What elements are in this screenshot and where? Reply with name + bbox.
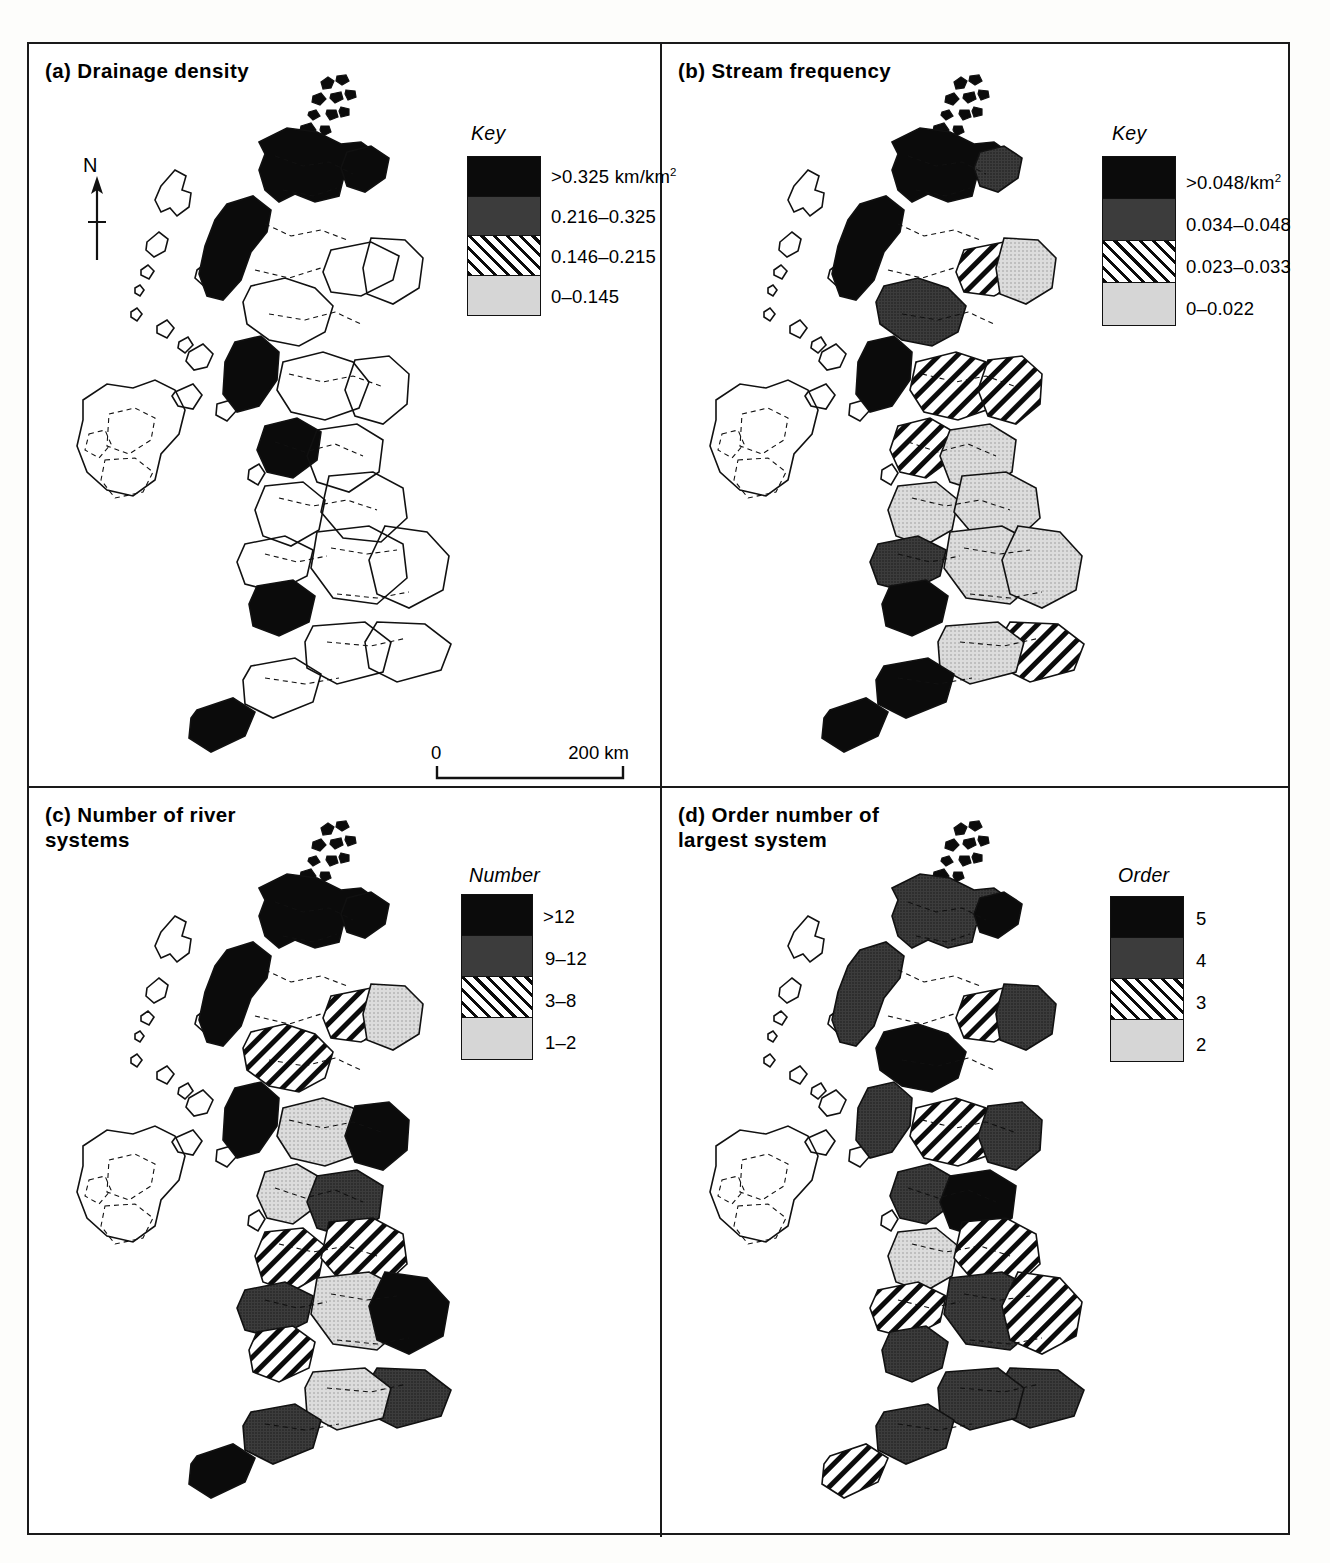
panel-d-legend-label-1: 5 xyxy=(1196,908,1207,930)
legend-swatch-class2 xyxy=(462,936,532,977)
legend-swatch-class4 xyxy=(1111,1020,1183,1061)
legend-swatch-class3 xyxy=(462,977,532,1018)
legend-swatch-class3 xyxy=(468,236,540,276)
panel-c-legend-label-3: 3–8 xyxy=(545,990,576,1012)
legend-label-text: >0.048/km xyxy=(1186,172,1275,193)
panel-d-order-number-of-largest-system: (d) Order number of largest system xyxy=(662,788,1290,1535)
legend-swatch-class2 xyxy=(1103,199,1175,241)
panel-c-key-heading: Number xyxy=(469,864,540,887)
panel-a-legend-label-4: 0–0.145 xyxy=(551,286,619,308)
panel-a-legend-label-1: >0.325 km/km2 xyxy=(551,166,677,188)
scale-bar-right-label: 200 km xyxy=(568,742,629,764)
map-b xyxy=(702,74,1162,774)
panel-d-legend-label-4: 2 xyxy=(1196,1034,1207,1056)
panel-b-legend-swatches xyxy=(1102,156,1176,326)
panel-a-legend-label-3: 0.146–0.215 xyxy=(551,246,656,268)
panel-c-legend-label-2: 9–12 xyxy=(545,948,587,970)
legend-swatch-class1 xyxy=(1111,897,1183,938)
panel-d-legend-swatches xyxy=(1110,896,1184,1062)
panel-b-legend-label-2: 0.034–0.048 xyxy=(1186,214,1291,236)
panel-a-legend-swatches xyxy=(467,156,541,316)
legend-swatch-class2 xyxy=(468,197,540,237)
scale-bar-icon xyxy=(431,764,629,786)
scale-bar-left-label: 0 xyxy=(431,742,441,764)
panel-d-legend-label-3: 3 xyxy=(1196,992,1207,1014)
legend-swatch-class1 xyxy=(468,157,540,197)
panel-b-legend-label-4: 0–0.022 xyxy=(1186,298,1254,320)
panel-c-legend-swatches xyxy=(461,894,533,1060)
map-a xyxy=(69,74,529,774)
panel-b-stream-frequency: (b) Stream frequency xyxy=(662,44,1290,786)
panel-b-key-heading: Key xyxy=(1112,122,1147,145)
legend-swatch-class2 xyxy=(1111,938,1183,979)
scale-bar: 0 200 km xyxy=(431,742,629,782)
panel-d-legend-label-2: 4 xyxy=(1196,950,1207,972)
legend-swatch-class3 xyxy=(1103,241,1175,283)
legend-label-text: >0.325 km/km xyxy=(551,166,670,187)
panel-b-legend-label-3: 0.023–0.033 xyxy=(1186,256,1291,278)
legend-swatch-class4 xyxy=(468,276,540,316)
figure-frame: (a) Drainage density N xyxy=(27,42,1290,1535)
map-d xyxy=(702,820,1162,1520)
panel-d-key-heading: Order xyxy=(1118,864,1169,887)
panel-c-number-of-river-systems: (c) Number of river systems xyxy=(29,788,660,1535)
legend-swatch-class3 xyxy=(1111,979,1183,1020)
panel-a-key-heading: Key xyxy=(471,122,506,145)
panel-a-legend-label-2: 0.216–0.325 xyxy=(551,206,656,228)
panel-a-drainage-density: (a) Drainage density N xyxy=(29,44,660,786)
panel-c-legend-label-4: 1–2 xyxy=(545,1032,576,1054)
legend-swatch-class1 xyxy=(1103,157,1175,199)
panel-b-legend-label-1: >0.048/km2 xyxy=(1186,172,1281,194)
panel-c-legend-label-1: >12 xyxy=(543,906,575,928)
map-c xyxy=(69,820,529,1520)
legend-swatch-class1 xyxy=(462,895,532,936)
legend-swatch-class4 xyxy=(462,1018,532,1059)
legend-label-sup: 2 xyxy=(1275,172,1282,184)
legend-swatch-class4 xyxy=(1103,283,1175,325)
